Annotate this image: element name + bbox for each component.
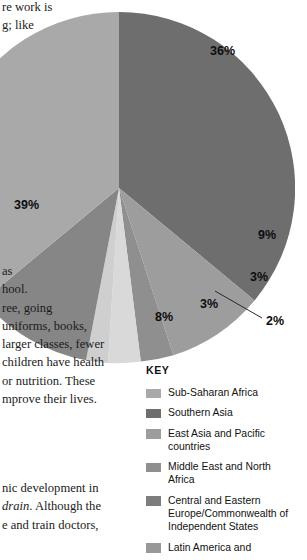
legend-item-label: East Asia and Pacific countries [168,427,265,454]
legend-item-label: Middle East and North Africa [168,460,271,487]
body-text-middle: as hool. ree, going uniforms, books, lar… [2,262,104,408]
legend-title: KEY [146,364,307,376]
legend-item-label: Sub-Saharan Africa [168,386,258,399]
body-text-bottom-pre: nic development in [2,481,99,495]
legend-item-label: Southern Asia [168,406,233,419]
pie-label-39: 39% [14,198,39,212]
body-text-bottom: nic development in drain. Although the e… [2,479,101,534]
pie-label-3-lower: 3% [200,297,218,311]
legend-swatch-icon [146,463,161,473]
legend-item-cee-cis[interactable]: Central and Eastern Europe/Commonwealth … [146,494,307,534]
book-page: 36% 39% 9% 3% 3% 2% 8% re work is g; lik… [0,0,307,560]
legend-item-sub-saharan-africa[interactable]: Sub-Saharan Africa [146,386,307,399]
legend-swatch-icon [146,496,161,506]
pie-label-36: 36% [210,44,235,58]
body-text-bottom-italic: drain [2,499,29,513]
pie-label-9: 9% [258,228,276,242]
pie-label-2: 2% [266,314,284,328]
legend-swatch-icon [146,409,161,419]
legend-swatch-icon [146,429,161,439]
pie-label-8: 8% [155,310,173,324]
legend-item-southern-asia[interactable]: Southern Asia [146,406,307,419]
legend-item-latin-america[interactable]: Latin America and [146,541,307,554]
legend-swatch-icon [146,389,161,399]
body-text-top: re work is g; like [2,0,52,35]
legend-item-middle-east-north-africa[interactable]: Middle East and North Africa [146,460,307,487]
legend-item-label: Latin America and [168,541,251,554]
chart-legend: KEY Sub-Saharan Africa Southern Asia Eas… [146,364,307,560]
legend-item-label: Central and Eastern Europe/Commonwealth … [168,494,288,534]
legend-item-east-asia-pacific[interactable]: East Asia and Pacific countries [146,427,307,454]
legend-swatch-icon [146,543,161,553]
pie-label-3-upper: 3% [250,270,268,284]
